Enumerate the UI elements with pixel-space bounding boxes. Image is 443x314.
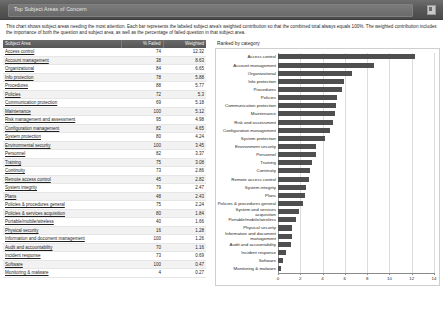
subject-area-link[interactable]: Information and document management: [5, 236, 85, 241]
chart-bar[interactable]: [278, 225, 292, 230]
subject-area-link[interactable]: Personnel: [5, 151, 25, 156]
subject-area-link[interactable]: Procedures: [5, 83, 28, 88]
cell-weighted: 2.43: [163, 192, 206, 201]
subject-area-link[interactable]: System integrity: [5, 185, 37, 190]
table-row: Plans482.43: [3, 192, 206, 201]
chart-bar[interactable]: [278, 144, 316, 149]
subject-area-link[interactable]: Access control: [5, 49, 34, 54]
subject-area-link[interactable]: System protection: [5, 134, 41, 139]
chart-category-label: Portable/mobile/wireless: [216, 217, 276, 222]
cell-subject-area: Risk management and assessment: [3, 116, 121, 125]
chart-bar[interactable]: [278, 120, 333, 125]
chart-bar[interactable]: [278, 209, 299, 214]
subject-area-link[interactable]: Incident response: [5, 253, 41, 258]
cell-subject-area: Portable/mobile/wireless: [3, 218, 121, 227]
subject-area-link[interactable]: Account management: [5, 58, 49, 63]
chart-bar[interactable]: [278, 160, 312, 165]
chart-category-label: Account management: [216, 63, 276, 68]
cell-weighted: 1.84: [163, 209, 206, 218]
table-row: System protection804.24: [3, 133, 206, 142]
column-header-percent-failed[interactable]: % Failed: [121, 40, 163, 48]
subject-area-link[interactable]: Risk management and assessment: [5, 117, 75, 122]
chart-category-label: Physical security: [216, 225, 276, 230]
chart-category-label: Maintenance: [216, 111, 276, 116]
subject-area-link[interactable]: Continuity: [5, 168, 25, 173]
chart-bar[interactable]: [278, 87, 342, 92]
chart-bar[interactable]: [278, 79, 344, 84]
cell-percent-failed: 100: [121, 235, 163, 244]
chart-bar[interactable]: [278, 177, 309, 182]
subject-area-link[interactable]: Configuration management: [5, 126, 59, 131]
chart-category-label: Software: [216, 258, 276, 263]
subject-area-link[interactable]: Policies: [5, 92, 21, 97]
subject-area-link[interactable]: Communication protection: [5, 100, 57, 105]
chart-bar[interactable]: [278, 266, 281, 271]
chart-category-label: Plans: [216, 193, 276, 198]
column-header-weighted[interactable]: Weighted: [163, 40, 206, 48]
chart-bar[interactable]: [278, 193, 305, 198]
table-row: Information and document management1001.…: [3, 235, 206, 244]
subject-area-link[interactable]: Audit and accountability: [5, 245, 53, 250]
table-row: Incident response730.69: [3, 252, 206, 261]
subject-area-link[interactable]: Training: [5, 160, 21, 165]
cell-percent-failed: 82: [121, 124, 163, 133]
cell-percent-failed: 45: [121, 175, 163, 184]
chart-bar[interactable]: [278, 152, 316, 157]
chart-bar[interactable]: [278, 71, 352, 76]
chart-category-label: Risk and assessment: [216, 120, 276, 125]
chart-bar[interactable]: [278, 234, 292, 239]
subject-area-link[interactable]: Portable/mobile/wireless: [5, 219, 54, 224]
chart-bar[interactable]: [278, 54, 415, 59]
cell-percent-failed: 72: [121, 90, 163, 99]
cell-percent-failed: 16: [121, 226, 163, 235]
window-titlebar: Top Subject Areas of Concern: [0, 0, 443, 20]
chart-bar-row: Portable/mobile/wireless: [278, 217, 434, 222]
subject-area-link[interactable]: Policies & procedures general: [5, 202, 65, 207]
chart-bar[interactable]: [278, 63, 374, 68]
cell-weighted: 1.28: [163, 226, 206, 235]
cell-subject-area: Personnel: [3, 150, 121, 159]
cell-percent-failed: 75: [121, 201, 163, 210]
subject-area-link[interactable]: Monitoring & malware: [5, 270, 49, 275]
x-axis-tick-label: 6: [344, 276, 346, 281]
chart-bar[interactable]: [278, 128, 330, 133]
subject-area-link[interactable]: Plans: [5, 194, 16, 199]
table-row: Policies725.3: [3, 90, 206, 99]
subject-area-link[interactable]: Info protection: [5, 75, 34, 80]
cell-percent-failed: 48: [121, 192, 163, 201]
chart-bar[interactable]: [278, 136, 325, 141]
subject-area-link[interactable]: Organizational: [5, 66, 34, 71]
chart-description: This chart shows subject areas needing t…: [0, 20, 443, 40]
subject-area-link[interactable]: Environmental security: [5, 143, 51, 148]
cell-weighted: 8.63: [163, 56, 206, 65]
chart-bar[interactable]: [278, 242, 291, 247]
chart-bar-row: System and services acquisition: [278, 209, 434, 214]
table-row: Configuration management824.65: [3, 124, 206, 133]
chart-bar[interactable]: [278, 185, 306, 190]
chart-bar[interactable]: [278, 258, 283, 263]
subject-area-link[interactable]: Remote access control: [5, 177, 51, 182]
chart-bar[interactable]: [278, 103, 336, 108]
chart-bar[interactable]: [278, 111, 335, 116]
chart-category-label: System and services acquisition: [216, 207, 276, 217]
subject-area-link[interactable]: Maintenance: [5, 109, 31, 114]
chart-bar[interactable]: [278, 201, 303, 206]
chart-bar[interactable]: [278, 250, 286, 255]
cell-subject-area: Policies: [3, 90, 121, 99]
cell-subject-area: Information and document management: [3, 235, 121, 244]
cell-subject-area: Environmental security: [3, 141, 121, 150]
cell-subject-area: Access control: [3, 48, 121, 56]
chart-bar[interactable]: [278, 168, 310, 173]
subject-area-link[interactable]: Software: [5, 262, 23, 267]
cell-subject-area: Info protection: [3, 73, 121, 82]
chart-category-label: Procedures: [216, 87, 276, 92]
subject-area-link[interactable]: Physical security: [5, 228, 39, 233]
subject-area-link[interactable]: Policies & services acquisition: [5, 211, 65, 216]
chart-bar[interactable]: [278, 217, 296, 222]
column-header-subject-area[interactable]: Subject Area: [3, 40, 121, 48]
chart-bar-row: Physical security: [278, 225, 434, 230]
chart-bar[interactable]: [278, 95, 337, 100]
cell-subject-area: Incident response: [3, 252, 121, 261]
cell-percent-failed: 40: [121, 218, 163, 227]
restore-window-icon[interactable]: [427, 5, 436, 15]
